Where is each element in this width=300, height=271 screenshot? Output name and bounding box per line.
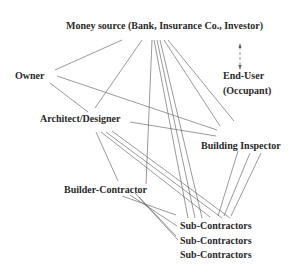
node-owner: Owner xyxy=(15,70,44,82)
node-builder-contractor: Builder-Contractor xyxy=(64,184,147,196)
node-sub-contractors-3: Sub-Contractors xyxy=(180,249,252,261)
relationship-diagram: Money source (Bank, Insurance Co., Inves… xyxy=(0,0,300,271)
node-money-source: Money source (Bank, Insurance Co., Inves… xyxy=(66,20,263,32)
node-sub-contractors-1: Sub-Contractors xyxy=(180,220,252,232)
node-architect-designer: Architect/Designer xyxy=(40,113,120,125)
connector-lines xyxy=(0,0,300,271)
node-sub-contractors-2: Sub-Contractors xyxy=(180,235,252,247)
node-end-user-occupant: (Occupant) xyxy=(223,85,271,97)
node-building-inspector: Building Inspector xyxy=(201,140,281,152)
node-end-user: End-User xyxy=(223,70,264,82)
